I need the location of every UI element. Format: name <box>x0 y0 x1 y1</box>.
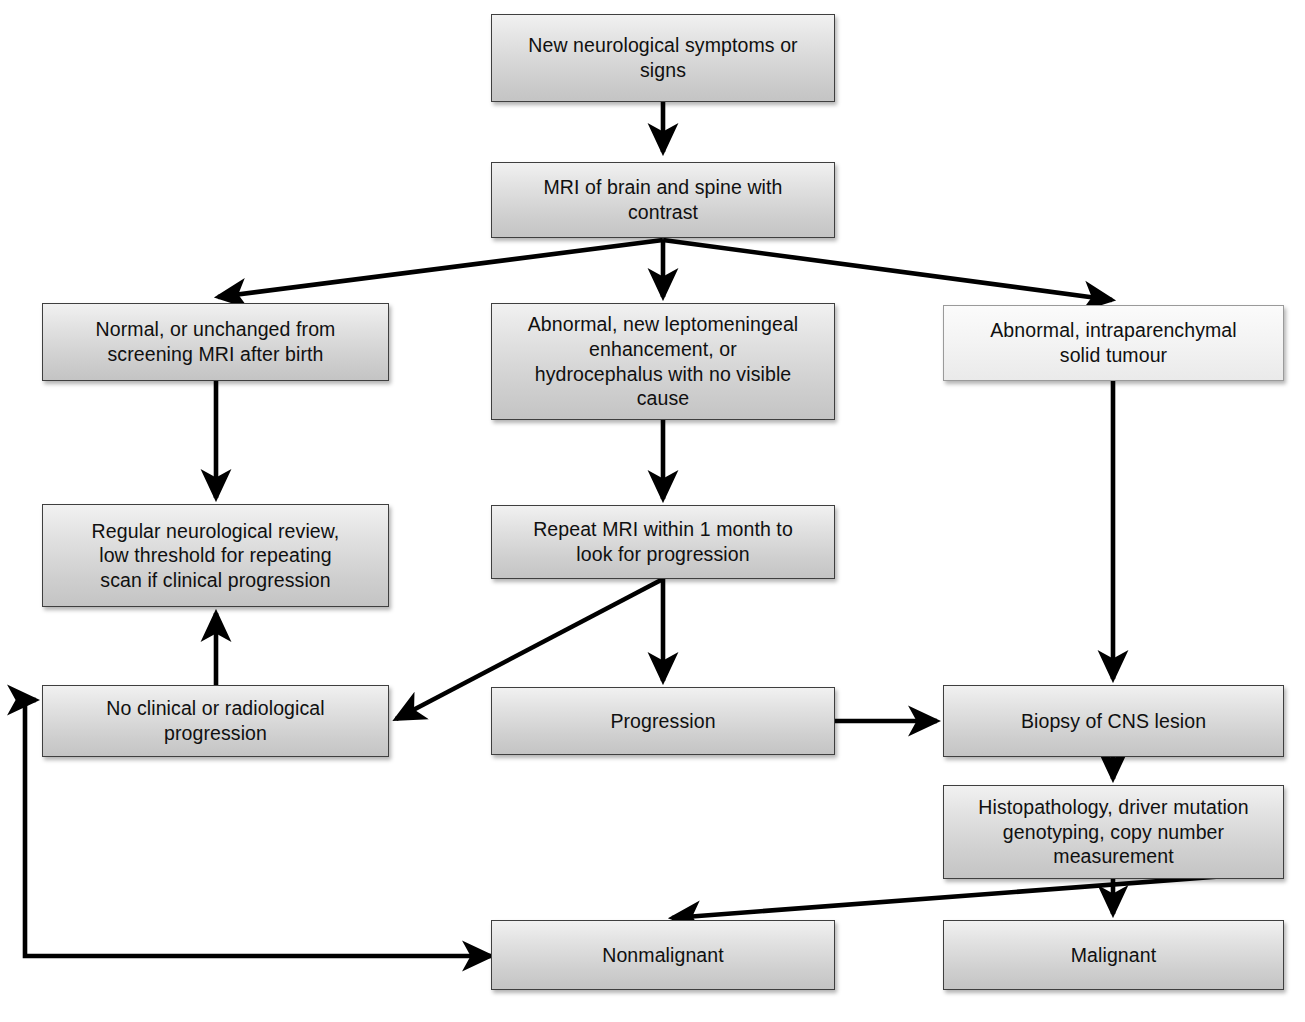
edge-mri-to-solidtumour <box>663 240 1112 300</box>
node-label-progression: Progression <box>500 709 826 734</box>
node-label-review: Regular neurological review, low thresho… <box>51 519 380 593</box>
node-label-normal: Normal, or unchanged from screening MRI … <box>51 317 380 366</box>
node-leptomeningeal[interactable]: Abnormal, new leptomeningeal enhancement… <box>491 303 835 420</box>
node-nonmalignant[interactable]: Nonmalignant <box>491 920 835 990</box>
node-label-biopsy: Biopsy of CNS lesion <box>952 709 1275 734</box>
node-label-solidtumour: Abnormal, intraparenchymal solid tumour <box>952 318 1275 367</box>
node-noprogression[interactable]: No clinical or radiological progression <box>42 685 389 757</box>
node-repeat[interactable]: Repeat MRI within 1 month to look for pr… <box>491 505 835 579</box>
node-normal[interactable]: Normal, or unchanged from screening MRI … <box>42 303 389 381</box>
node-label-malignant: Malignant <box>952 943 1275 968</box>
node-solidtumour[interactable]: Abnormal, intraparenchymal solid tumour <box>943 305 1284 381</box>
node-symptoms[interactable]: New neurological symptoms or signs <box>491 14 835 102</box>
node-label-noprogression: No clinical or radiological progression <box>51 696 380 745</box>
edge-mri-to-normal <box>218 240 663 297</box>
node-biopsy[interactable]: Biopsy of CNS lesion <box>943 685 1284 757</box>
node-label-mri: MRI of brain and spine with contrast <box>500 175 826 224</box>
node-label-histopathology: Histopathology, driver mutation genotypi… <box>952 795 1275 869</box>
node-mri[interactable]: MRI of brain and spine with contrast <box>491 162 835 238</box>
node-review[interactable]: Regular neurological review, low thresho… <box>42 504 389 607</box>
node-malignant[interactable]: Malignant <box>943 920 1284 990</box>
node-label-symptoms: New neurological symptoms or signs <box>500 33 826 82</box>
node-progression[interactable]: Progression <box>491 687 835 755</box>
node-histopathology[interactable]: Histopathology, driver mutation genotypi… <box>943 785 1284 879</box>
node-label-leptomeningeal: Abnormal, new leptomeningeal enhancement… <box>500 312 826 410</box>
node-label-repeat: Repeat MRI within 1 month to look for pr… <box>500 517 826 566</box>
node-label-nonmalignant: Nonmalignant <box>500 943 826 968</box>
flowchart-canvas: New neurological symptoms or signsMRI of… <box>0 0 1305 1022</box>
